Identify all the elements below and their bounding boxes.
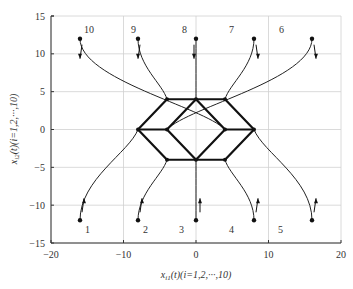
direction-arrows [78,45,318,213]
arrowhead-5 [314,198,318,203]
x-tick-label: 20 [336,249,346,260]
arrowhead-7 [256,54,260,59]
start-marker-7 [252,37,256,41]
agent-label-3: 3 [179,224,184,235]
arrowhead-1 [82,198,86,203]
formation-node [223,158,227,162]
formation-node [165,128,169,132]
formation-node [223,97,227,101]
agent-label-9: 9 [131,24,136,35]
agent-label-4: 4 [229,224,234,235]
arrowhead-6 [314,54,318,59]
agent-label-1: 1 [85,224,90,235]
formation-edge [225,99,254,129]
formation-trajectory-chart: −20−1001020−15−10−5051015 12345678910 xi… [0,0,353,289]
y-tick-label: −10 [29,200,45,211]
y-tick-label: 5 [40,86,45,97]
formation-edge [225,130,254,160]
start-marker-8 [194,37,198,41]
formation-edge [167,130,196,160]
formation-node [194,97,198,101]
start-marker-9 [136,37,140,41]
agent-label-6: 6 [279,24,284,35]
formation-edge [138,130,167,160]
y-tick-label: −15 [29,238,45,249]
x-tick-label: −20 [43,249,59,260]
agent-label-2: 2 [143,224,148,235]
agent-label-5: 5 [278,224,283,235]
arrowhead-8 [192,54,196,59]
formation-node [252,128,256,132]
trajectory-agent-1 [80,130,138,221]
agent-label-7: 7 [229,24,234,35]
formation-node [136,128,140,132]
x-axis-label: xi1(t)(i=1,2,···,10) [160,269,232,282]
formation-edge [138,99,167,129]
start-marker-6 [310,37,314,41]
y-tick-label: 0 [40,124,45,135]
trajectory-agent-4 [225,160,254,221]
trajectory-agent-5 [254,130,312,221]
y-tick-label: 15 [35,11,45,22]
y-tick-label: −5 [34,162,45,173]
arrowhead-9 [136,54,140,59]
start-marker-5 [310,218,314,222]
start-marker-4 [252,218,256,222]
formation-node [223,128,227,132]
start-marker-1 [78,218,82,222]
trajectory-agent-2 [138,160,167,221]
formation-node [165,97,169,101]
formation-node [194,158,198,162]
formation-node [165,158,169,162]
start-marker-2 [136,218,140,222]
arrowhead-3 [198,198,202,203]
x-tick-label: −10 [116,249,132,260]
x-tick-label: 10 [264,249,274,260]
agent-label-8: 8 [182,24,187,35]
y-axis-label: xi2(t)(i=1,2,···,10) [8,93,21,165]
start-marker-3 [194,218,198,222]
start-marker-10 [78,37,82,41]
agent-label-10: 10 [84,24,94,35]
formation-edge [196,130,225,160]
arrowhead-4 [256,198,260,203]
arrowhead-10 [78,54,82,59]
y-tick-label: 10 [35,48,45,59]
tick-labels: −20−1001020−15−10−5051015 [29,11,346,261]
x-tick-label: 0 [194,249,199,260]
